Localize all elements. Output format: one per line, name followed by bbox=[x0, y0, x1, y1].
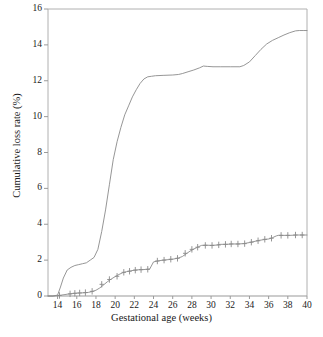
y-axis-tick-label: 16 bbox=[10, 4, 42, 14]
plot-canvas bbox=[0, 0, 323, 337]
y-axis-tick-label: 0 bbox=[10, 291, 42, 301]
y-axis-tick-label: 4 bbox=[10, 219, 42, 229]
x-axis-tick-label: 40 bbox=[295, 301, 319, 311]
censoring-marks-lower-curve bbox=[57, 232, 304, 299]
y-axis-tick-label: 2 bbox=[10, 255, 42, 265]
x-axis-label: Gestational age (weeks) bbox=[0, 312, 323, 323]
y-axis-tick-label: 10 bbox=[10, 112, 42, 122]
y-axis-tick-label: 8 bbox=[10, 148, 42, 158]
y-axis-tick-label: 6 bbox=[10, 183, 42, 193]
series-line-lower-curve bbox=[48, 235, 307, 296]
plot-frame bbox=[48, 9, 307, 296]
cumulative-loss-rate-chart: Cumulative loss rate (%) Gestational age… bbox=[0, 0, 323, 337]
y-axis-tick-label: 12 bbox=[10, 76, 42, 86]
y-axis-tick-label: 14 bbox=[10, 40, 42, 50]
